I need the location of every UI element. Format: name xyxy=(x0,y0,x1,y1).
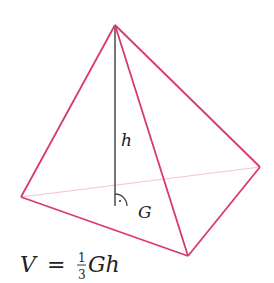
formula-lhs: V xyxy=(20,252,38,277)
edge-front-right xyxy=(188,167,260,256)
formula-numerator: 1 xyxy=(78,251,86,265)
formula-denominator: 3 xyxy=(78,268,86,282)
edge-apex-left xyxy=(21,25,115,197)
formula-rhs: Gh xyxy=(88,252,120,277)
formula-equals: = xyxy=(47,252,65,277)
height-label: h xyxy=(121,130,132,150)
right-angle-dot xyxy=(119,200,121,202)
base-area-label: G xyxy=(138,202,152,222)
pyramid-diagram: h G V = 1 3 Gh xyxy=(0,0,274,283)
volume-formula: V = 1 3 Gh xyxy=(20,251,120,282)
right-angle-marker xyxy=(115,194,127,206)
hidden-base-edge xyxy=(21,167,260,197)
edge-left-front xyxy=(21,197,188,256)
